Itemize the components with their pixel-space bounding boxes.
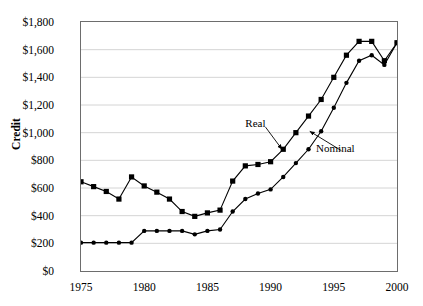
y-tick-label: $1,800 [0, 16, 54, 28]
y-tick-label: $1,200 [0, 99, 54, 111]
data-point-marker-real [180, 209, 185, 214]
data-point-marker-real [268, 159, 273, 164]
y-tick-label: $0 [0, 265, 54, 277]
x-tick-label: 1980 [120, 281, 168, 293]
data-point-marker-real [306, 113, 311, 118]
series-line-real [81, 41, 397, 216]
y-axis-tick-labels: $0$200$400$600$800$1,000$1,200$1,400$1,6… [0, 0, 54, 306]
cropped-title-remnant [0, 0, 423, 7]
data-point-marker-real [356, 39, 361, 44]
data-point-marker-nominal [193, 232, 197, 236]
data-point-marker-real [192, 214, 197, 219]
series-label-real: Real [245, 117, 265, 129]
y-tick-label: $200 [0, 237, 54, 249]
y-tick-label: $400 [0, 210, 54, 222]
data-point-marker-real [129, 174, 134, 179]
y-tick-label: $1,600 [0, 44, 54, 56]
x-tick-label: 1995 [310, 281, 358, 293]
data-point-marker-nominal [104, 240, 108, 244]
data-point-marker-nominal [230, 209, 234, 213]
data-point-marker-nominal [370, 53, 374, 57]
data-point-marker-real [217, 208, 222, 213]
data-point-marker-real [243, 163, 248, 168]
data-point-marker-real [293, 130, 298, 135]
data-point-marker-nominal [155, 229, 159, 233]
data-point-marker-real [91, 184, 96, 189]
data-point-marker-nominal [256, 191, 260, 195]
data-point-marker-real [369, 39, 374, 44]
y-tick-label: $1,000 [0, 127, 54, 139]
data-point-marker-nominal [243, 197, 247, 201]
data-point-marker-nominal [167, 229, 171, 233]
data-point-marker-nominal [129, 240, 133, 244]
y-tick-label: $1,400 [0, 71, 54, 83]
data-point-marker-real [205, 210, 210, 215]
data-point-marker-nominal [332, 106, 336, 110]
data-point-marker-nominal [294, 161, 298, 165]
data-point-marker-real [142, 183, 147, 188]
credit-line-chart: Credit $0$200$400$600$800$1,000$1,200$1,… [0, 0, 423, 306]
data-point-marker-real [255, 162, 260, 167]
data-point-marker-nominal [81, 240, 83, 244]
data-point-marker-real [104, 189, 109, 194]
series-label-nominal: Nominal [316, 142, 355, 154]
data-point-marker-real [331, 75, 336, 80]
data-point-marker-nominal [382, 63, 386, 67]
x-tick-label: 1975 [57, 281, 105, 293]
data-point-marker-real [319, 97, 324, 102]
x-tick-label: 1985 [183, 281, 231, 293]
y-tick-label: $800 [0, 154, 54, 166]
y-tick-label: $600 [0, 182, 54, 194]
data-point-marker-nominal [218, 227, 222, 231]
data-point-marker-nominal [268, 187, 272, 191]
x-tick-label: 2000 [373, 281, 421, 293]
data-point-marker-real [230, 178, 235, 183]
data-point-marker-real [116, 196, 121, 201]
data-point-marker-nominal [306, 147, 310, 151]
data-point-marker-nominal [180, 229, 184, 233]
x-tick-label: 1990 [247, 281, 295, 293]
data-point-marker-nominal [205, 229, 209, 233]
data-point-marker-nominal [142, 229, 146, 233]
annotation-arrow [266, 127, 282, 149]
data-point-marker-real [344, 53, 349, 58]
data-point-marker-nominal [319, 129, 323, 133]
data-point-marker-real [81, 179, 84, 184]
data-point-marker-nominal [91, 240, 95, 244]
data-point-marker-real [167, 196, 172, 201]
data-point-marker-nominal [357, 59, 361, 63]
data-point-marker-nominal [344, 81, 348, 85]
data-point-marker-nominal [281, 175, 285, 179]
data-point-marker-nominal [117, 240, 121, 244]
data-point-marker-real [154, 190, 159, 195]
